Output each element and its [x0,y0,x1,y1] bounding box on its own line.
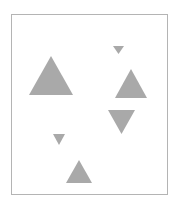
triangle-medium-up-icon [115,69,147,98]
triangle-medium-down-icon [108,110,135,134]
triangle-large-up-icon [29,56,73,95]
triangle-small-down-left-icon [53,134,65,145]
triangles-canvas [0,0,179,205]
triangle-small-up-bottom-icon [66,160,92,183]
triangle-small-down-top-icon [113,46,124,54]
